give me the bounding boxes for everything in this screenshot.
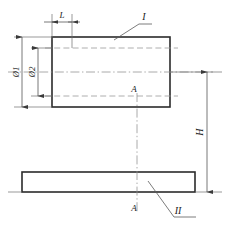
part-II-face [22, 172, 195, 192]
dimension-D2-label: Ø2 [27, 66, 37, 78]
section-label-bottom: A [130, 203, 137, 213]
assembly-drawing-svg: L Ø1 Ø2 H I II A A [0, 0, 239, 242]
dimension-L-label: L [58, 10, 64, 20]
part-I-label: I [141, 11, 146, 22]
dimension-H-label: H [194, 128, 205, 137]
part-II-label: II [174, 205, 182, 216]
technical-drawing-canvas: L Ø1 Ø2 H I II A A [0, 0, 239, 242]
dimension-D1-label: Ø1 [11, 67, 21, 79]
part-II-body [22, 172, 195, 192]
section-label-top: A [130, 84, 137, 94]
